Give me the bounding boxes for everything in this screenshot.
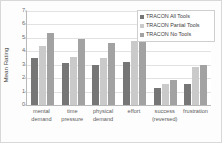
bar-group [27,11,58,105]
legend-label: TRACON Partial Tools [146,23,200,28]
bar [78,39,85,105]
legend-item: TRACON All Tools [140,13,212,22]
bar [139,34,146,105]
x-axis-category-line: demand [88,116,119,124]
y-tick-label: 4 [22,48,25,54]
y-tick-label: 7 [22,8,25,14]
x-axis-category-line: mental [26,108,57,116]
x-axis-category-line: effort [118,108,149,116]
x-axis-category-label: effort [118,108,149,123]
legend-label: TRACON No Tools [146,32,191,37]
x-axis-category-line: success [149,108,180,116]
x-axis-category-label: timepressure [57,108,88,123]
legend-item: TRACON Partial Tools [140,22,212,31]
legend: TRACON All ToolsTRACON Partial ToolsTRAC… [137,10,215,42]
bar [92,65,99,105]
x-axis-category-line: demand [26,116,57,124]
y-tick-label: 5 [22,35,25,41]
bar [62,63,69,105]
bar [100,58,107,105]
x-axis-category-line: (reversed) [149,116,180,124]
x-axis-category-label: mentaldemand [26,108,57,123]
bar-group [58,11,89,105]
bar [184,84,191,105]
x-axis-category-label: frustration [180,108,211,123]
bar [108,43,115,105]
x-axis-category-line: pressure [57,116,88,124]
x-axis-category-line: time [57,108,88,116]
bar [200,65,207,105]
y-tick-label: 6 [22,22,25,28]
bar [47,33,54,105]
legend-swatch-icon [140,24,144,28]
x-axis-category-label: success(reversed) [149,108,180,123]
bar-group [88,11,119,105]
legend-label: TRACON All Tools [146,14,190,19]
bar [154,88,161,105]
bar [170,80,177,106]
x-axis-category-label: physicaldemand [88,108,119,123]
bar [123,62,130,105]
y-tick-label: 1 [22,89,25,95]
legend-item: TRACON No Tools [140,31,212,40]
bar [192,67,199,105]
bar [31,58,38,105]
chart-figure: Mean Rating 01234567 mentaldemandtimepre… [0,0,222,143]
y-axis-title: Mean Rating [2,38,14,92]
bar [39,46,46,105]
legend-swatch-icon [140,15,144,19]
bar [162,84,169,105]
y-tick-label: 0 [22,102,25,108]
legend-swatch-icon [140,33,144,37]
y-tick-label: 2 [22,75,25,81]
bar [131,41,138,105]
x-axis-category-line: physical [88,108,119,116]
bar [70,57,77,105]
x-axis-category-line: frustration [180,108,211,116]
y-tick-label: 3 [22,62,25,68]
x-axis-labels: mentaldemandtimepressurephysicaldemandef… [26,108,211,123]
